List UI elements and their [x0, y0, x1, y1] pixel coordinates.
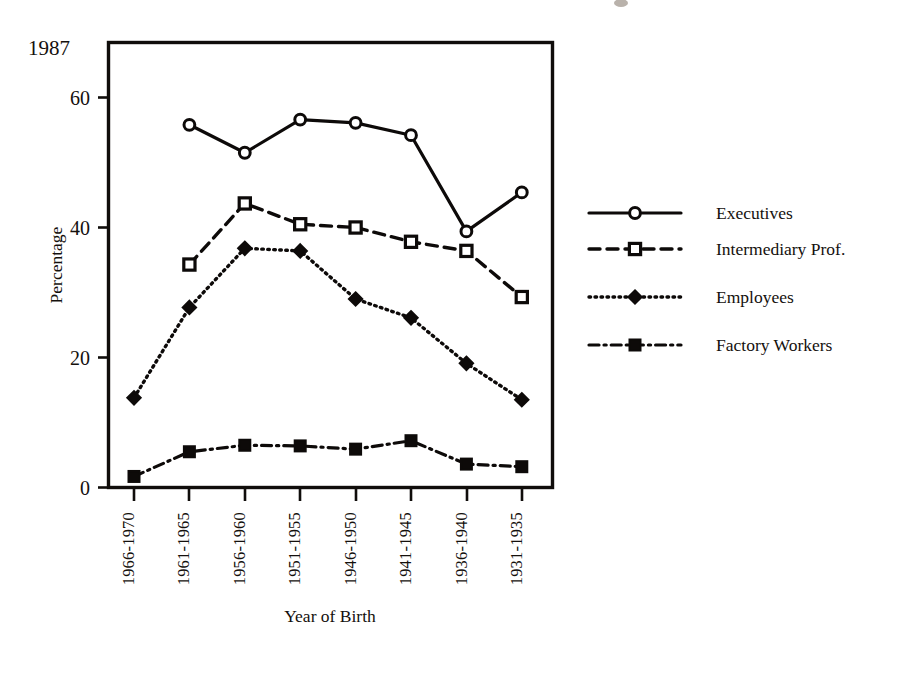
series-intermediary-prof-marker-1 — [184, 259, 195, 270]
series-intermediary-prof — [184, 198, 528, 303]
legend-label-intermediary-prof: Intermediary Prof. — [716, 239, 845, 259]
x-axis-ticks — [134, 488, 522, 501]
series-factory-workers-marker-1 — [184, 446, 195, 457]
x-axis-tick-labels: 1966-1970 1961-1965 1956-1960 1951-1955 … — [119, 512, 526, 585]
legend-key-factory-workers — [589, 340, 681, 351]
series-executives-marker-1 — [184, 119, 195, 130]
series-factory-workers-marker-2 — [239, 440, 250, 451]
legend-key-employees — [589, 291, 681, 304]
series-executives-marker-4 — [350, 117, 361, 128]
y-axis-title: Percentage — [46, 226, 66, 303]
x-tick-label-2: 1956-1960 — [230, 512, 249, 585]
x-tick-label-0: 1966-1970 — [119, 512, 138, 585]
y-tick-label-0: 0 — [80, 477, 90, 499]
series-intermediary-prof-marker-6 — [461, 245, 472, 256]
legend-labels: Executives Intermediary Prof. Employees … — [716, 203, 845, 355]
chart-legend — [589, 208, 681, 351]
series-intermediary-prof-marker-5 — [405, 236, 416, 247]
series-executives-line — [189, 120, 521, 232]
legend-key-employees-marker-sample — [629, 291, 642, 304]
x-tick-label-4: 1946-1950 — [341, 512, 360, 585]
legend-key-intermediary-prof-marker-sample — [629, 243, 640, 254]
series-executives-marker-5 — [406, 130, 417, 141]
series-factory-workers-marker-0 — [129, 471, 140, 482]
x-tick-label-1: 1961-1965 — [174, 512, 193, 585]
series-intermediary-prof-marker-3 — [295, 219, 306, 230]
legend-label-executives: Executives — [716, 203, 793, 223]
series-intermediary-prof-marker-7 — [516, 291, 527, 302]
x-tick-label-6: 1936-1940 — [452, 512, 471, 585]
legend-key-executives — [589, 208, 681, 219]
series-executives — [184, 114, 527, 237]
series-factory-workers-marker-6 — [461, 459, 472, 470]
series-executives-marker-7 — [516, 187, 527, 198]
series-executives-marker-6 — [461, 226, 472, 237]
y-axis-ticks: 60 40 20 0 — [70, 87, 108, 499]
legend-key-intermediary-prof — [589, 243, 681, 254]
x-axis-title: Year of Birth — [284, 606, 376, 626]
legend-label-factory-workers: Factory Workers — [716, 335, 833, 355]
x-tick-label-7: 1931-1935 — [507, 512, 526, 585]
series-executives-marker-2 — [239, 147, 250, 158]
x-tick-label-5: 1941-1945 — [396, 512, 415, 585]
series-factory-workers — [129, 435, 528, 482]
series-factory-workers-marker-7 — [516, 461, 527, 472]
legend-key-executives-marker-sample — [630, 208, 641, 219]
x-tick-label-3: 1951-1955 — [285, 512, 304, 585]
y-tick-label-40: 40 — [70, 217, 90, 239]
corner-year-label: 1987 — [28, 36, 70, 60]
series-factory-workers-marker-3 — [295, 441, 306, 452]
legend-key-factory-workers-marker-sample — [630, 340, 641, 351]
series-executives-marker-3 — [295, 114, 306, 125]
series-factory-workers-marker-5 — [406, 435, 417, 446]
y-tick-label-20: 20 — [70, 347, 90, 369]
y-tick-label-60: 60 — [70, 87, 90, 109]
series-intermediary-prof-marker-4 — [350, 222, 361, 233]
legend-label-employees: Employees — [716, 287, 794, 307]
scan-artifact — [614, 0, 628, 7]
chart-figure: 1987 Percentage 60 40 20 0 196 — [0, 0, 900, 673]
series-intermediary-prof-marker-2 — [239, 198, 250, 209]
series-factory-workers-marker-4 — [350, 444, 361, 455]
series-layer — [128, 114, 529, 482]
series-employees-marker-4 — [349, 293, 362, 306]
chart-canvas: 1987 Percentage 60 40 20 0 196 — [0, 0, 900, 673]
